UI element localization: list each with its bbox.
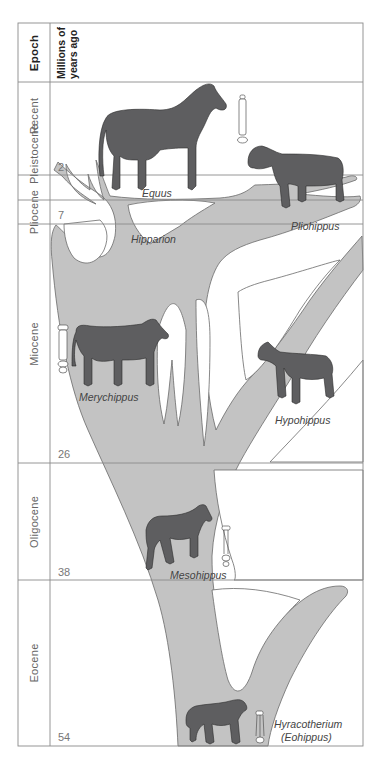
equus-horse-icon xyxy=(99,84,227,190)
time-mark-7: 7 xyxy=(58,209,64,221)
epoch-miocene-text: Miocene xyxy=(28,322,40,366)
merychippus-leg-bone-icon xyxy=(58,325,68,373)
genus-merychippus: Merychippus xyxy=(79,391,139,403)
time-mark-2: 2 xyxy=(58,161,64,173)
genus-mesohippus: Mesohippus xyxy=(170,569,227,581)
header-millions-of-years-ago: Millions ofyears ago xyxy=(50,23,84,82)
epoch-pleistocene-text: Pleistocene xyxy=(28,124,40,184)
genus-hipparion: Hipparion xyxy=(131,233,176,245)
header-epoch-text: Epoch xyxy=(28,34,40,71)
time-mark-38: 38 xyxy=(58,566,70,578)
genus-equus: Equus xyxy=(142,187,172,199)
genus-hypohippus: Hypohippus xyxy=(275,414,330,426)
header-mya-line2: years ago xyxy=(67,27,79,79)
epoch-oligocene-text: Oligocene xyxy=(28,495,40,547)
genus-pliohippus: Pliohippus xyxy=(291,220,339,232)
epoch-oligocene: Oligocene xyxy=(18,463,50,580)
merychippus-horse-icon xyxy=(72,319,169,386)
genus-hyracotherium: Hyracotherium xyxy=(274,718,342,730)
epoch-eocene-text: Eocene xyxy=(28,643,40,682)
equus-leg-bone-icon xyxy=(238,95,248,143)
header-epoch: Epoch xyxy=(18,23,50,82)
horse-evolution-diagram xyxy=(0,0,381,760)
epoch-pliocene: Pliocene xyxy=(18,200,50,224)
epoch-eocene: Eocene xyxy=(18,580,50,746)
header-mya-text: Millions ofyears ago xyxy=(55,27,79,79)
header-mya-line1: Millions of xyxy=(55,27,67,79)
genus-eohippus: (Eohippus) xyxy=(281,731,332,743)
epoch-pleistocene: Pleistocene xyxy=(18,108,50,200)
time-mark-26: 26 xyxy=(58,448,70,460)
time-mark-54: 54 xyxy=(58,731,70,743)
epoch-miocene: Miocene xyxy=(18,224,50,463)
